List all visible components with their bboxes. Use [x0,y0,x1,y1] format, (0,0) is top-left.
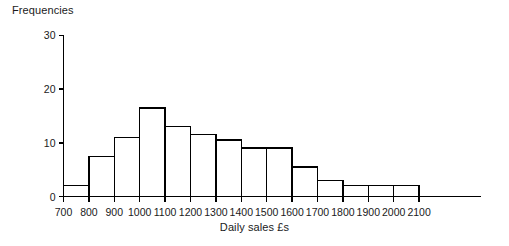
x-tick-label: 1700 [306,206,329,218]
x-tick-label: 1900 [357,206,380,218]
x-tick-label: 900 [106,206,124,218]
histogram-bar [241,148,266,196]
histogram-bar [165,127,190,197]
y-tick-label: 30 [28,29,56,41]
histogram-bar [318,180,343,196]
x-tick-label: 2000 [382,206,405,218]
x-tick-label: 1800 [331,206,354,218]
histogram-bar [343,186,368,197]
x-tick-label: 2100 [407,206,430,218]
histogram-bar [140,108,165,197]
bars-layer [64,108,420,197]
x-tick-label: 1100 [154,206,177,218]
x-tick-label: 700 [55,206,73,218]
histogram-bar [267,148,292,196]
histogram-bar [216,140,241,196]
x-tick-label: 1200 [179,206,202,218]
histogram-figure: Frequencies 0102030 70080090010001100120… [0,0,509,246]
histogram-bar [368,186,393,197]
x-axis-title: Daily sales £s [0,221,509,233]
x-tick-label: 1500 [255,206,278,218]
histogram-bar [191,135,216,197]
y-tick-label: 20 [28,83,56,95]
y-tick-label: 10 [28,137,56,149]
x-tick-label: 1400 [230,206,253,218]
histogram-bar [89,156,114,196]
y-tick-label: 0 [28,191,56,203]
histogram-bar [292,167,317,197]
x-tick-label: 1600 [280,206,303,218]
x-tick-label: 1300 [204,206,227,218]
x-tick-label: 1000 [128,206,151,218]
x-tick-label: 800 [80,206,98,218]
histogram-bar [64,186,89,197]
histogram-bar [114,137,139,196]
histogram-bar [394,186,419,197]
